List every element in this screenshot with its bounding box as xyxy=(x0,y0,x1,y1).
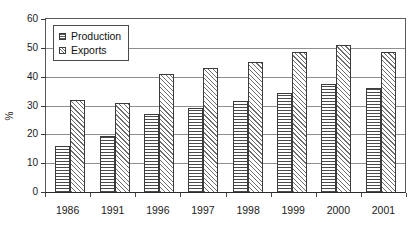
y-axis-title: % xyxy=(5,111,15,120)
exports-swatch-icon xyxy=(59,47,66,54)
bar-exports-1986[interactable] xyxy=(70,100,85,192)
x-axis-label-1996: 1996 xyxy=(135,200,180,220)
bar-exports-2000[interactable] xyxy=(336,45,351,192)
x-axis-label-2000: 2000 xyxy=(316,200,361,220)
x-axis-tick xyxy=(45,193,46,197)
bar-exports-1998[interactable] xyxy=(248,62,263,192)
y-axis-tick-label: 10 xyxy=(27,158,38,168)
y-axis-tick-label: 0 xyxy=(32,187,38,197)
bar-group xyxy=(359,19,403,192)
y-axis-tick-label: 20 xyxy=(27,129,38,139)
y-axis-tick-label: 60 xyxy=(27,14,38,24)
bar-exports-2001[interactable] xyxy=(381,52,396,192)
x-axis-tick xyxy=(361,193,362,197)
x-axis-tick xyxy=(406,193,407,197)
x-axis-tick xyxy=(271,193,272,197)
bar-group xyxy=(181,19,225,192)
legend-label-production: Production xyxy=(71,31,121,42)
y-axis-tick-label: 40 xyxy=(27,72,38,82)
bar-chart: % 0102030405060 198619911996199719981999… xyxy=(0,0,420,231)
bar-production-2001[interactable] xyxy=(366,88,381,192)
bar-exports-1997[interactable] xyxy=(203,68,218,192)
legend-label-exports: Exports xyxy=(71,45,107,56)
chart-legend: Production Exports xyxy=(53,25,129,61)
x-axis-tick xyxy=(90,193,91,197)
bar-exports-1999[interactable] xyxy=(292,52,307,192)
bar-production-1997[interactable] xyxy=(188,108,203,192)
x-axis-label-1986: 1986 xyxy=(45,200,90,220)
x-axis-label-2001: 2001 xyxy=(361,200,406,220)
x-axis-label-1991: 1991 xyxy=(90,200,135,220)
bar-production-1986[interactable] xyxy=(55,146,70,192)
bar-production-1991[interactable] xyxy=(100,136,115,192)
bar-group xyxy=(226,19,270,192)
bar-production-2000[interactable] xyxy=(321,84,336,192)
bar-group xyxy=(314,19,358,192)
bar-production-1999[interactable] xyxy=(277,93,292,192)
x-axis-tick xyxy=(226,193,227,197)
x-axis-tick xyxy=(135,193,136,197)
bar-group xyxy=(137,19,181,192)
y-axis-tick-label: 30 xyxy=(27,101,38,111)
bar-group xyxy=(270,19,314,192)
x-axis-tick xyxy=(180,193,181,197)
x-axis-label-1999: 1999 xyxy=(271,200,316,220)
legend-item-production[interactable]: Production xyxy=(59,29,121,43)
x-axis-tick xyxy=(316,193,317,197)
production-swatch-icon xyxy=(59,33,66,40)
y-axis-tick-label: 50 xyxy=(27,43,38,53)
bar-exports-1991[interactable] xyxy=(115,103,130,192)
x-axis-labels: 19861991199619971998199920002001 xyxy=(45,200,406,220)
x-axis-label-1998: 1998 xyxy=(226,200,271,220)
x-axis-ticks xyxy=(45,193,406,199)
bar-exports-1996[interactable] xyxy=(159,74,174,192)
x-axis-label-1997: 1997 xyxy=(180,200,225,220)
bar-production-1996[interactable] xyxy=(144,114,159,192)
bar-production-1998[interactable] xyxy=(233,101,248,192)
legend-item-exports[interactable]: Exports xyxy=(59,43,121,57)
